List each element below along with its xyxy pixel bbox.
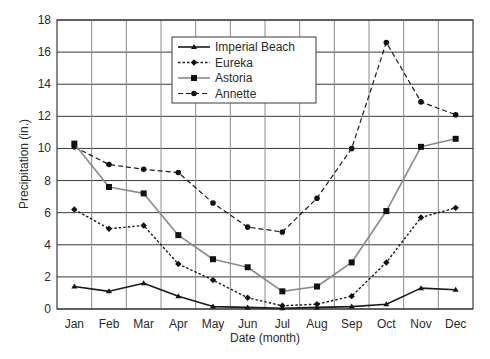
x-axis-label: Date (month) (230, 331, 300, 345)
diamond-marker (244, 295, 250, 301)
circle-marker (245, 224, 251, 230)
square-marker (279, 288, 285, 294)
circle-marker (384, 40, 390, 46)
circle-marker (210, 200, 216, 206)
y-tick-label: 10 (38, 141, 52, 155)
circle-marker (191, 91, 197, 97)
x-tick-label: Feb (99, 317, 120, 331)
x-tick-label: Mar (133, 317, 154, 331)
square-marker (245, 264, 251, 270)
y-tick-label: 4 (44, 238, 51, 252)
y-tick-label: 0 (44, 302, 51, 316)
x-tick-label: Dec (445, 317, 466, 331)
square-marker (175, 232, 181, 238)
circle-marker (280, 229, 286, 235)
x-tick-label: Aug (306, 317, 327, 331)
y-tick-label: 12 (38, 109, 52, 123)
x-axis-ticks: JanFebMarAprMayJunJulAugSepOctNovDec (65, 317, 467, 331)
x-tick-label: Jul (275, 317, 290, 331)
y-tick-label: 2 (44, 270, 51, 284)
legend: Imperial BeachEurekaAstoriaAnnette (172, 37, 316, 103)
circle-marker (418, 99, 424, 105)
square-marker (106, 184, 112, 190)
diamond-marker (210, 277, 216, 283)
y-tick-label: 8 (44, 174, 51, 188)
legend-label: Annette (215, 87, 257, 101)
legend-label: Imperial Beach (215, 40, 295, 54)
circle-marker (176, 170, 182, 176)
circle-marker (453, 112, 459, 118)
square-marker (191, 75, 197, 81)
legend-label: Astoria (215, 71, 253, 85)
square-marker (418, 144, 424, 150)
circle-marker (106, 162, 112, 168)
y-tick-label: 6 (44, 206, 51, 220)
circle-marker (141, 167, 147, 173)
square-marker (71, 141, 77, 147)
x-tick-label: Apr (169, 317, 188, 331)
precipitation-line-chart: 024681012141618 JanFebMarAprMayJunJulAug… (0, 0, 490, 359)
x-tick-label: Nov (410, 317, 431, 331)
diamond-marker (452, 205, 458, 211)
x-tick-label: Sep (341, 317, 363, 331)
y-axis-label: Precipitation (in.) (17, 119, 31, 209)
x-tick-label: May (202, 317, 225, 331)
square-marker (383, 208, 389, 214)
y-tick-label: 14 (38, 77, 52, 91)
chart-canvas: 024681012141618 JanFebMarAprMayJunJulAug… (0, 0, 490, 359)
square-marker (141, 190, 147, 196)
diamond-marker (106, 226, 112, 232)
x-tick-label: Jan (65, 317, 84, 331)
x-tick-label: Oct (377, 317, 396, 331)
y-tick-label: 16 (38, 45, 52, 59)
circle-marker (349, 146, 355, 152)
x-tick-label: Jun (238, 317, 257, 331)
diamond-marker (71, 206, 77, 212)
y-axis-ticks: 024681012141618 (38, 13, 52, 316)
square-marker (210, 256, 216, 262)
square-marker (349, 259, 355, 265)
legend-label: Eureka (215, 56, 253, 70)
circle-marker (314, 195, 320, 201)
triangle-marker (141, 280, 147, 285)
square-marker (453, 136, 459, 142)
square-marker (314, 284, 320, 290)
y-tick-label: 18 (38, 13, 52, 27)
